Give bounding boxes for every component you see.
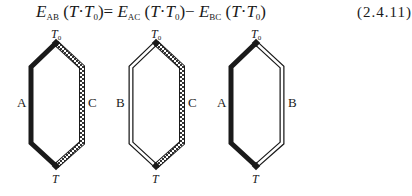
label-a: A (17, 95, 27, 110)
label-a: A (217, 95, 227, 110)
wire-a-solid (231, 43, 256, 166)
thermocouple-circuit-diagrams: T0 T A C T0 T B C T0 T A B (0, 0, 412, 196)
label-c: C (88, 95, 97, 110)
circuit-diagram-bc: T0 T B C (116, 27, 197, 186)
label-t0: T0 (151, 27, 162, 42)
wire-a-solid (31, 43, 56, 166)
circuit-diagram-ab: T0 T A B (217, 27, 297, 186)
label-t: T (52, 172, 60, 186)
label-t0: T0 (51, 27, 62, 42)
label-t: T (152, 172, 160, 186)
label-t: T (252, 172, 260, 186)
label-t0: T0 (251, 27, 262, 42)
wire-c-hatched (156, 43, 182, 166)
label-c: C (188, 95, 197, 110)
label-b: B (288, 95, 297, 110)
wire-c-hatched (56, 43, 82, 166)
circuit-diagram-ac: T0 T A C (17, 27, 97, 186)
label-b: B (116, 95, 125, 110)
